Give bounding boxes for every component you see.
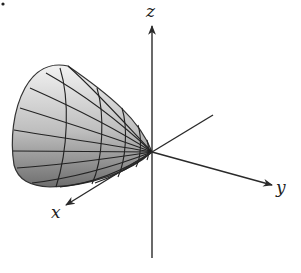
z-axis-label: z [145, 1, 156, 21]
paraboloid-surface [12, 65, 152, 187]
x-axis-label: x [51, 202, 61, 222]
stray-dot [1, 2, 4, 5]
y-axis-label: y [275, 177, 286, 197]
y-axis [152, 152, 272, 185]
negative-x-axis-line [152, 115, 213, 152]
paraboloid-diagram: z y x [0, 0, 301, 273]
